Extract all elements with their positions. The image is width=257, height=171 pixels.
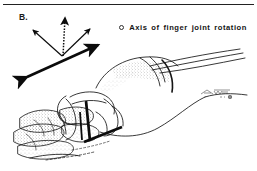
thin-arrow-upper-left	[33, 30, 62, 56]
figure-panel-b: B. Axis of finger joint rotation	[0, 0, 257, 171]
thick-double-arrow	[27, 45, 98, 77]
dashed-arrow-vertical	[63, 18, 65, 56]
artist-signature-mark	[200, 88, 236, 100]
axis-arrow-cluster	[0, 0, 257, 171]
thin-arrow-upper-right	[62, 29, 90, 56]
